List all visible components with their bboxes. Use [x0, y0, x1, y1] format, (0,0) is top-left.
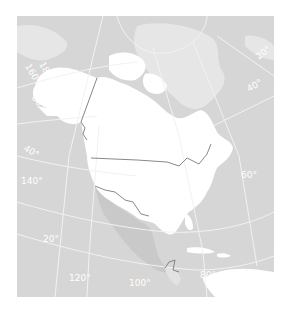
north-america-map: 160° 180° 60° 40° 140° 20° 120° 100° 80°… [17, 16, 274, 297]
label-lon-100: 100° [129, 278, 151, 288]
map-frame: 160° 180° 60° 40° 140° 20° 120° 100° 80°… [17, 16, 274, 297]
label-lat-20: 20° [43, 234, 59, 244]
label-lon-140: 140° [21, 176, 43, 186]
label-lon-80: 80° [200, 270, 216, 280]
label-lon-60: 60° [241, 170, 257, 180]
label-lon-120: 120° [69, 273, 91, 283]
